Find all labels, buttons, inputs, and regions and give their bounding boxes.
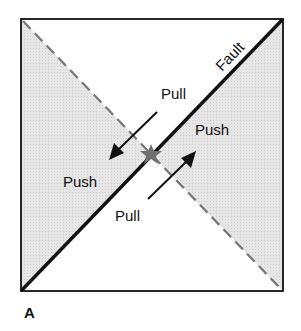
fault-plane-diagram: Fault Pull Push Push Pull A xyxy=(0,0,301,331)
pull-label-top: Pull xyxy=(161,85,186,102)
compression-quadrant-left xyxy=(21,19,152,291)
push-label-left: Push xyxy=(63,173,97,190)
push-label-right: Push xyxy=(195,121,229,138)
panel-label: A xyxy=(24,304,35,321)
pull-label-bottom: Pull xyxy=(115,207,140,224)
